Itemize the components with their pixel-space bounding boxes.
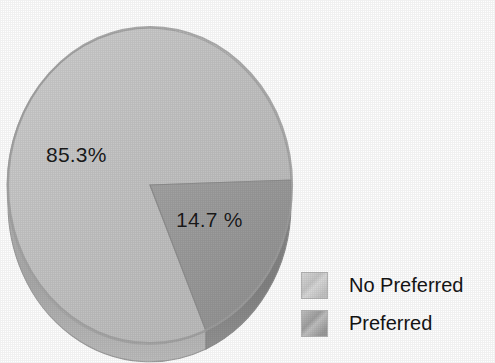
pie-chart-figure: 85.3% 14.7 % No Preferred Preferred <box>0 0 495 363</box>
legend-swatch-preferred <box>301 310 328 337</box>
pie-chart-svg <box>0 0 310 363</box>
pie-data-label-no-preferred: 85.3% <box>46 144 107 165</box>
legend-label-no-preferred: No Preferred <box>349 275 464 295</box>
chart-legend: No Preferred Preferred <box>301 266 495 342</box>
legend-swatch-no-preferred <box>301 272 328 299</box>
pie-data-label-preferred: 14.7 % <box>176 209 243 230</box>
legend-label-preferred: Preferred <box>349 313 432 333</box>
legend-item-preferred[interactable]: Preferred <box>301 304 495 342</box>
legend-item-no-preferred[interactable]: No Preferred <box>301 266 495 304</box>
pie-chart-plot-area: 85.3% 14.7 % <box>0 0 310 363</box>
